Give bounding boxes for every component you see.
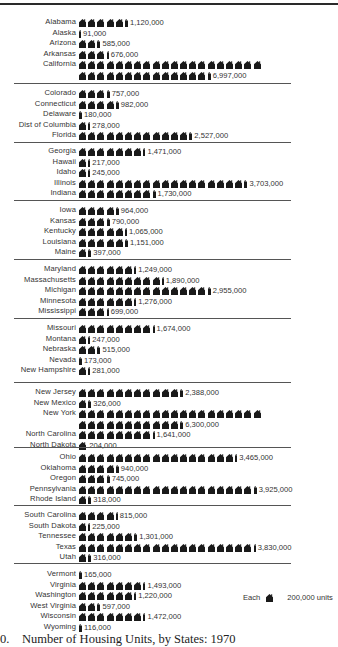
house-icon bbox=[79, 533, 86, 541]
house-icon bbox=[125, 190, 132, 198]
house-icon bbox=[116, 325, 123, 333]
house-icon bbox=[79, 410, 86, 418]
state-row: New Mexico326,000 bbox=[0, 398, 338, 408]
state-row: Connecticut982,000 bbox=[0, 99, 338, 109]
icon-bar: 165,000 bbox=[79, 570, 112, 579]
house-icon bbox=[88, 533, 95, 541]
house-icon bbox=[134, 544, 141, 552]
state-row: North Carolina1,641,000 bbox=[0, 429, 338, 439]
house-icon bbox=[79, 40, 86, 48]
state-value: 217,000 bbox=[92, 158, 119, 167]
state-value: 2,955,000 bbox=[213, 286, 247, 295]
house-icon bbox=[208, 544, 215, 552]
state-value: 815,000 bbox=[120, 511, 147, 520]
state-label: Florida bbox=[52, 130, 76, 140]
house-icon bbox=[79, 624, 82, 632]
house-icon bbox=[97, 207, 104, 215]
house-icon bbox=[88, 190, 95, 198]
state-value: 1,472,000 bbox=[147, 612, 181, 621]
house-icon bbox=[189, 61, 196, 69]
house-icon bbox=[180, 486, 187, 494]
icon-bar: 982,000 bbox=[79, 100, 148, 109]
house-icon bbox=[189, 544, 196, 552]
state-value: 1,674,000 bbox=[157, 324, 191, 333]
icon-bar: 1,674,000 bbox=[79, 324, 190, 333]
state-label: South Carolina bbox=[24, 510, 76, 520]
house-icon bbox=[180, 287, 187, 295]
house-icon bbox=[134, 592, 136, 600]
house-icon bbox=[116, 298, 123, 306]
house-icon bbox=[116, 207, 119, 215]
house-icon bbox=[116, 148, 123, 156]
house-icon bbox=[97, 287, 104, 295]
house-icon bbox=[116, 19, 123, 27]
house-icon bbox=[143, 61, 150, 69]
icon-bar: 699,000 bbox=[79, 307, 138, 316]
state-row: Arizona585,000 bbox=[0, 38, 338, 48]
house-icon bbox=[107, 239, 114, 247]
house-icon bbox=[116, 228, 123, 236]
state-value: 757,000 bbox=[112, 89, 139, 98]
state-value: 278,000 bbox=[92, 121, 119, 130]
house-icon bbox=[198, 544, 205, 552]
state-row: Mississippi699,000 bbox=[0, 306, 338, 316]
house-icon bbox=[198, 72, 205, 80]
house-icon bbox=[97, 533, 104, 541]
house-icon bbox=[235, 180, 242, 188]
state-row: North Dakota204,000 bbox=[0, 440, 338, 450]
house-icon bbox=[208, 410, 215, 418]
house-icon bbox=[97, 410, 104, 418]
icon-bar: 1,472,000 bbox=[79, 612, 181, 621]
house-icon bbox=[88, 410, 95, 418]
house-icon bbox=[107, 148, 114, 156]
icon-bar: 245,000 bbox=[79, 168, 120, 177]
icon-bar bbox=[79, 60, 263, 69]
state-row: Vermont165,000 bbox=[0, 569, 338, 579]
house-icon bbox=[235, 544, 242, 552]
house-icon bbox=[125, 72, 132, 80]
state-label: California bbox=[43, 59, 76, 69]
icon-bar: 815,000 bbox=[79, 511, 147, 520]
house-icon bbox=[79, 475, 86, 483]
house-icon bbox=[235, 61, 242, 69]
state-label: Ohio bbox=[60, 452, 76, 462]
house-icon bbox=[198, 61, 205, 69]
house-icon bbox=[254, 410, 261, 418]
house-icon bbox=[134, 582, 141, 590]
house-icon bbox=[88, 249, 91, 257]
icon-bar: 1,493,000 bbox=[79, 581, 181, 590]
house-icon bbox=[97, 101, 104, 109]
house-icon bbox=[116, 592, 123, 600]
state-label: Alaska bbox=[53, 28, 76, 38]
state-label: Colorado bbox=[44, 88, 76, 98]
state-row: New York bbox=[0, 408, 338, 418]
state-value: 1,730,000 bbox=[158, 189, 192, 198]
state-label: Montana bbox=[46, 334, 76, 344]
icon-bar: 281,000 bbox=[79, 366, 120, 375]
house-icon bbox=[88, 298, 95, 306]
state-row: Idaho245,000 bbox=[0, 167, 338, 177]
house-icon bbox=[116, 101, 119, 109]
state-label: North Carolina bbox=[26, 429, 76, 439]
state-value: 6,300,000 bbox=[185, 420, 219, 429]
house-icon bbox=[171, 544, 178, 552]
state-label: Connecticut bbox=[35, 99, 76, 109]
top-rule bbox=[0, 3, 338, 5]
house-icon bbox=[97, 72, 104, 80]
state-row: Alabama1,120,000 bbox=[0, 17, 338, 27]
house-icon bbox=[79, 287, 86, 295]
state-value: 964,000 bbox=[121, 206, 148, 215]
state-row: Maine397,000 bbox=[0, 247, 338, 257]
state-label: South Dakota bbox=[29, 521, 76, 531]
house-icon bbox=[116, 180, 123, 188]
house-icon bbox=[79, 122, 86, 130]
state-label: Texas bbox=[56, 542, 76, 552]
house-icon bbox=[226, 544, 233, 552]
house-icon bbox=[134, 180, 141, 188]
state-label: Delaware bbox=[43, 109, 76, 119]
state-row-continuation: 6,997,000 bbox=[0, 70, 338, 80]
house-icon bbox=[88, 180, 95, 188]
house-icon bbox=[107, 90, 110, 98]
house-icon bbox=[226, 61, 233, 69]
house-icon bbox=[189, 410, 196, 418]
